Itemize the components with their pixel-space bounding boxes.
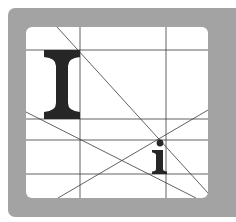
diagonal-line-b [26,112,196,198]
diagonal-line-c [58,110,208,198]
large-letter-i-glyph [44,50,80,119]
small-letter-i-glyph [152,140,167,174]
grid-diagram [0,0,236,222]
